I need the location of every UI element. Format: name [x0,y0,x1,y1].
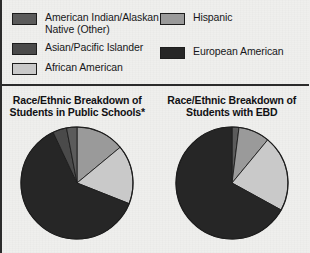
legend-item: Asian/Pacific Islander [12,42,159,55]
legend-swatch-european-american [160,47,185,59]
legend-swatch-hispanic [160,13,185,25]
pie-wrap [18,124,136,242]
chart-ebd: Race/Ethnic Breakdown of Students with E… [155,86,310,253]
legend-label: Asian/Pacific Islander [45,42,143,54]
legend-item: Hispanic [160,12,284,25]
legend-item: European American [160,46,284,59]
charts-area: Race/Ethnic Breakdown of Students in Pub… [0,86,309,253]
legend-swatch-american-indian [12,13,37,25]
legend-label: Hispanic [193,12,232,24]
chart-title: Race/Ethnic Breakdown of Students with E… [167,94,296,118]
legend-column-left: American Indian/Alaskan Native (Other) A… [12,12,159,82]
pie-chart-public-schools [18,124,136,242]
chart-title: Race/Ethnic Breakdown of Students in Pub… [10,94,145,118]
chart-legend: American Indian/Alaskan Native (Other) A… [0,0,309,84]
legend-label: European American [193,46,284,58]
legend-column-right: Hispanic European American [160,12,284,66]
pie-chart-ebd [173,124,291,242]
legend-label: African American [45,62,123,74]
legend-swatch-asian-pacific [12,43,37,55]
legend-label: American Indian/Alaskan Native (Other) [45,12,159,35]
legend-item: African American [12,62,159,75]
pie-wrap [173,124,291,242]
legend-item: American Indian/Alaskan Native (Other) [12,12,159,35]
chart-public-schools: Race/Ethnic Breakdown of Students in Pub… [0,86,155,253]
legend-swatch-african-american [12,63,37,75]
